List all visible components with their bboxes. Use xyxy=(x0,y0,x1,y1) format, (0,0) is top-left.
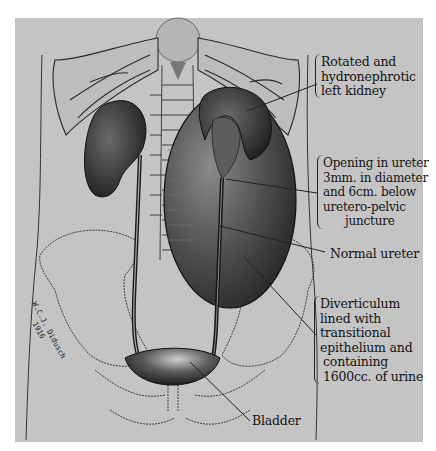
label-ureter-opening: Opening in ureter 3mm. in diameter and 6… xyxy=(323,156,429,229)
label-line: 3mm. in diameter xyxy=(323,171,429,186)
label-line: Diverticulum xyxy=(320,297,423,312)
label-line: juncture xyxy=(323,214,429,229)
right-kidney xyxy=(85,101,146,197)
xiphoid xyxy=(170,62,186,80)
sternum xyxy=(156,18,200,62)
label-line: uretero-pelvic xyxy=(323,200,429,215)
label-line: and 6cm. below xyxy=(323,185,429,200)
label-normal-ureter: Normal ureter xyxy=(330,247,419,262)
label-line: hydronephrotic xyxy=(321,70,416,85)
label-line: 1600cc. of urine xyxy=(320,370,423,385)
label-line: epithelium and xyxy=(320,341,423,356)
label-line: transitional xyxy=(320,326,423,341)
label-line: Opening in ureter xyxy=(323,156,429,171)
label-line: containing xyxy=(320,355,423,370)
label-line: lined with xyxy=(320,312,423,327)
label-line: Normal ureter xyxy=(330,247,419,262)
label-left-kidney: Rotated and hydronephrotic left kidney xyxy=(321,55,416,99)
label-bladder: Bladder xyxy=(252,414,301,429)
label-line: left kidney xyxy=(321,84,416,99)
label-line: Rotated and xyxy=(321,55,416,70)
bladder xyxy=(125,348,220,385)
label-line: Bladder xyxy=(252,414,301,429)
label-diverticulum: Diverticulum lined with transitional epi… xyxy=(320,297,423,384)
